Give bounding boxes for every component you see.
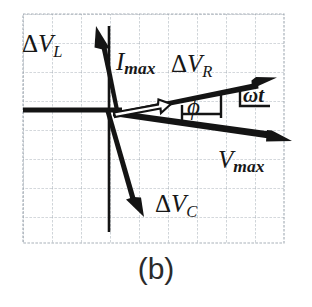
subscript-max-i: max [124, 58, 155, 78]
v-glyph-c: V [171, 190, 186, 217]
subscript-c: C [186, 202, 197, 221]
delta-glyph-r: Δ [171, 50, 187, 77]
label-omega-t: ωt [243, 85, 264, 106]
figure-caption: (b) [0, 252, 312, 286]
label-delta-v-l: ΔVL [22, 31, 63, 60]
label-v-max: Vmax [218, 147, 264, 176]
v-glyph-max: V [218, 146, 233, 173]
v-glyph-l: V [38, 30, 53, 57]
v-glyph-r: V [187, 50, 202, 77]
subscript-max-v: max [233, 156, 264, 176]
subscript-l: L [53, 42, 62, 61]
label-phi: ϕ [187, 94, 200, 119]
delta-glyph-c: Δ [155, 190, 171, 217]
phasor-diagram-figure: ΔVL Imax ΔVR ωt ϕ Vmax ΔVC (b) [0, 0, 312, 307]
subscript-r: R [202, 62, 212, 81]
delta-glyph-l: Δ [22, 30, 38, 57]
label-i-max: Imax [116, 49, 155, 78]
label-delta-v-r: ΔVR [171, 51, 212, 80]
label-delta-v-c: ΔVC [155, 191, 197, 220]
